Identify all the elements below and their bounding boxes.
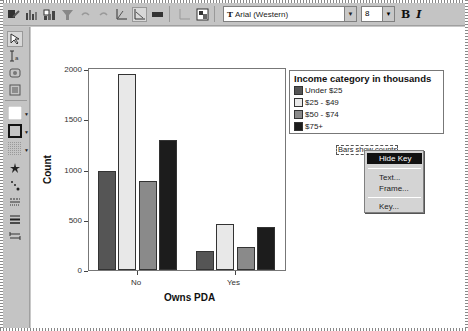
font-size-dropdown[interactable]: 8 ▼ <box>361 6 395 22</box>
filter-icon[interactable] <box>60 7 75 22</box>
legend-item: Under $25 <box>294 86 342 95</box>
x-tick <box>137 271 138 275</box>
y-tick-label: 0 <box>52 266 82 275</box>
bar-yes-50-74[interactable] <box>237 247 255 270</box>
bar-chart-icon[interactable] <box>24 7 39 22</box>
y-tick <box>84 120 88 121</box>
legend-item: $25 - $49 <box>294 98 339 107</box>
border-color-icon[interactable] <box>7 123 23 139</box>
fill-color-dropdown-icon[interactable]: ▼ <box>24 111 29 117</box>
axis-selected-icon[interactable] <box>132 7 147 22</box>
bar-yes-75-plus[interactable] <box>257 227 275 270</box>
chart-editor-toolbar: T Arial (Western) ▼ 8 ▼ B I <box>3 3 465 26</box>
border-color-dropdown-icon[interactable]: ▼ <box>24 129 29 135</box>
application-window: T Arial (Western) ▼ 8 ▼ B I a ▼ <box>0 0 468 331</box>
italic-button[interactable]: I <box>416 8 421 21</box>
legend-item: $75+ <box>294 122 323 131</box>
bar-no-50-74[interactable] <box>139 181 157 270</box>
fill-color-icon[interactable] <box>7 105 23 121</box>
bar-no-75-plus[interactable] <box>159 140 177 270</box>
y-tick-label: 1000 <box>52 166 82 175</box>
menu-separator <box>368 168 421 169</box>
y-tick-label: 2000 <box>52 65 82 74</box>
line-style-icon[interactable] <box>7 194 23 210</box>
dots-icon[interactable] <box>7 177 23 193</box>
palette-separator <box>5 100 27 101</box>
zoom-icon[interactable] <box>7 65 23 81</box>
menu-item-key[interactable]: Key... <box>367 201 422 212</box>
pattern-dropdown-icon[interactable]: ▼ <box>24 147 29 153</box>
chart-builder-icon[interactable] <box>6 7 21 22</box>
y-tick <box>84 171 88 172</box>
chevron-down-icon[interactable]: ▼ <box>344 7 356 21</box>
font-size-value: 8 <box>365 9 369 18</box>
chevron-down-icon[interactable]: ▼ <box>382 7 394 21</box>
plot-area[interactable] <box>88 68 286 271</box>
toolbar-separator <box>169 6 170 22</box>
menu-item-frame[interactable]: Frame... <box>367 183 422 194</box>
y-axis-title[interactable]: Count <box>42 155 53 184</box>
redo-icon[interactable] <box>96 7 111 22</box>
legend-icon[interactable] <box>150 7 165 22</box>
menu-separator <box>368 197 421 198</box>
properties-icon[interactable] <box>195 7 210 22</box>
bar-no-25-49[interactable] <box>118 74 136 270</box>
bar-yes-25-49[interactable] <box>216 224 234 270</box>
bar-no-under-25[interactable] <box>98 171 116 270</box>
legend-item: $50 - $74 <box>294 110 339 119</box>
truetype-icon: T <box>227 9 233 19</box>
marker-icon[interactable] <box>7 160 23 176</box>
legend-label: $25 - $49 <box>305 98 339 107</box>
legend-swatch <box>294 98 303 107</box>
legend-label: Under $25 <box>305 86 342 95</box>
y-tick <box>84 271 88 272</box>
svg-text:a: a <box>15 55 19 61</box>
menu-item-hide-key[interactable]: Hide Key <box>367 153 422 164</box>
text-cursor-icon[interactable]: a <box>7 48 23 64</box>
gridline-icon[interactable] <box>177 7 192 22</box>
line-weight-icon[interactable] <box>7 211 23 227</box>
x-tick-label: No <box>131 278 141 287</box>
y-tick <box>84 70 88 71</box>
menu-item-text[interactable]: Text... <box>367 172 422 183</box>
undo-icon[interactable] <box>78 7 93 22</box>
axis-icon[interactable] <box>114 7 129 22</box>
legend-box[interactable]: Income category in thousands Under $25 $… <box>289 70 444 134</box>
toolbar-separator <box>214 6 215 22</box>
left-tool-palette: a ▼ ▼ ▼ <box>3 27 30 328</box>
frame-icon[interactable] <box>7 82 23 98</box>
legend-title: Income category in thousands <box>294 73 431 84</box>
legend-label: $75+ <box>305 122 323 131</box>
y-tick-label: 500 <box>52 216 82 225</box>
x-tick <box>235 271 236 275</box>
pattern-icon[interactable] <box>7 141 23 157</box>
bold-button[interactable]: B <box>401 8 410 21</box>
x-tick-label: Yes <box>227 278 240 287</box>
context-menu: Hide Key Text... Frame... Key... <box>364 150 424 213</box>
x-axis-title[interactable]: Owns PDA <box>164 292 215 303</box>
legend-swatch <box>294 122 303 131</box>
y-tick <box>84 221 88 222</box>
bar-yes-under-25[interactable] <box>196 251 214 270</box>
legend-swatch <box>294 86 303 95</box>
font-name-dropdown[interactable]: T Arial (Western) ▼ <box>223 6 357 22</box>
font-name-value: Arial (Western) <box>235 10 288 19</box>
line-ends-icon[interactable] <box>7 228 23 244</box>
y-tick-label: 1500 <box>52 115 82 124</box>
chart-type-icon[interactable] <box>42 7 57 22</box>
legend-swatch <box>294 110 303 119</box>
pointer-icon[interactable] <box>7 31 23 47</box>
legend-label: $50 - $74 <box>305 110 339 119</box>
